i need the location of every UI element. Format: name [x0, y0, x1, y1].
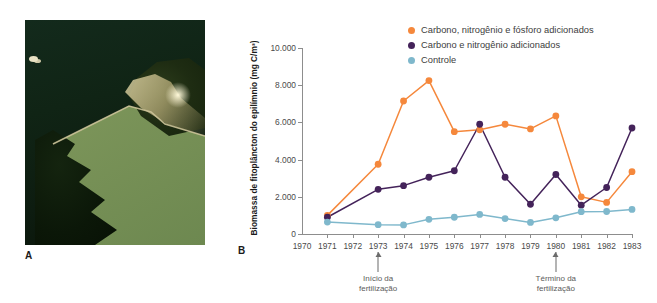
data-point: [552, 214, 559, 221]
data-point: [502, 215, 509, 222]
x-tick-label: 1979: [521, 241, 540, 251]
panel-b-chart: Carbono, nitrogênio e fósforo adicionado…: [240, 8, 657, 303]
x-tick-label: 1973: [369, 241, 388, 251]
data-point: [375, 186, 382, 193]
data-point: [451, 128, 458, 135]
annotation-caption: Início dafertilização: [359, 274, 397, 294]
legend-label: Carbono, nitrogênio e fósforo adicionado…: [421, 24, 594, 37]
x-tick-label: 1970: [293, 241, 312, 251]
data-point: [527, 126, 534, 133]
x-tick-label: 1977: [470, 241, 489, 251]
y-tick-label: 8.000: [275, 80, 296, 90]
x-tick-mark: [327, 234, 328, 238]
x-tick-mark: [480, 234, 481, 238]
photo-barrier-curtain-line: [25, 20, 205, 245]
y-tick-label: 0: [291, 229, 296, 239]
data-point: [375, 161, 382, 168]
data-point: [502, 121, 509, 128]
data-point: [527, 219, 534, 226]
data-series-layer: [302, 48, 632, 234]
data-point: [629, 125, 636, 132]
x-tick-label: 1978: [496, 241, 515, 251]
series-line: [327, 81, 632, 216]
data-point: [603, 208, 610, 215]
x-tick-mark: [607, 234, 608, 238]
panel-a-photograph: [25, 20, 205, 245]
y-tick-label: 10.000: [270, 43, 296, 53]
annotation-caption-line1: Início da: [359, 274, 397, 284]
data-point: [426, 216, 433, 223]
x-tick-label: 1982: [597, 241, 616, 251]
annotation-caption-line2: fertilização: [536, 284, 576, 294]
y-axis-title-wrap: Biomassa de fitoplâncton do epilímnio (m…: [246, 48, 262, 228]
data-point: [603, 199, 610, 206]
x-tick-mark: [556, 234, 557, 238]
data-point: [578, 193, 585, 200]
x-tick-mark: [454, 234, 455, 238]
legend-item-carbon-nitrogen-phosphorus[interactable]: Carbono, nitrogênio e fósforo adicionado…: [408, 24, 594, 37]
data-point: [400, 182, 407, 189]
x-tick-mark: [505, 234, 506, 238]
y-tick-label: 4.000: [275, 155, 296, 165]
x-tick-label: 1975: [420, 241, 439, 251]
y-tick-label: 2.000: [275, 192, 296, 202]
data-point: [578, 208, 585, 215]
panel-a-label: A: [25, 250, 33, 261]
y-tick-mark: [298, 234, 302, 235]
data-point: [451, 214, 458, 221]
data-point: [375, 221, 382, 228]
data-point: [629, 168, 636, 175]
y-tick-label: 6.000: [275, 117, 296, 127]
data-point: [629, 206, 636, 213]
figure-root: A B Carbono, nitrogênio e fósforo adicio…: [0, 0, 657, 303]
x-tick-label: 1974: [394, 241, 413, 251]
data-point: [552, 171, 559, 178]
annotation-arrow-icon: [378, 252, 379, 272]
x-tick-label: 1981: [572, 241, 591, 251]
annotation-caption: Término dafertilização: [536, 274, 576, 294]
data-point: [324, 219, 331, 226]
data-point: [603, 184, 610, 191]
annotation-arrow-icon: [555, 252, 556, 272]
legend-marker-orange: [408, 27, 415, 34]
x-tick-label: 1976: [445, 241, 464, 251]
x-tick-mark: [353, 234, 354, 238]
data-point: [400, 221, 407, 228]
x-axis-line: [302, 234, 632, 235]
x-tick-mark: [632, 234, 633, 238]
plot-area: 02.0004.0006.0008.00010.000 197019711972…: [302, 48, 632, 234]
aerial-photo-divided-lake: [25, 20, 205, 245]
data-point: [476, 211, 483, 218]
data-point: [527, 201, 534, 208]
x-tick-mark: [530, 234, 531, 238]
data-point: [502, 174, 509, 181]
data-point: [451, 167, 458, 174]
data-point: [476, 121, 483, 128]
annotation-caption-line2: fertilização: [359, 284, 397, 294]
x-tick-mark: [378, 234, 379, 238]
data-point: [552, 112, 559, 119]
x-tick-mark: [581, 234, 582, 238]
data-point: [426, 77, 433, 84]
x-tick-label: 1983: [623, 241, 642, 251]
x-tick-label: 1980: [547, 241, 566, 251]
x-tick-label: 1971: [318, 241, 337, 251]
x-tick-label: 1972: [343, 241, 362, 251]
x-tick-mark: [429, 234, 430, 238]
series-line: [327, 124, 632, 217]
data-point: [426, 174, 433, 181]
y-axis-title: Biomassa de fitoplâncton do epilímnio (m…: [249, 41, 259, 236]
x-tick-mark: [404, 234, 405, 238]
annotation-caption-line1: Término da: [536, 274, 576, 284]
data-point: [400, 98, 407, 105]
data-point: [578, 202, 585, 209]
